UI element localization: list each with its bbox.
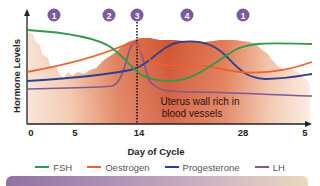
y-axis-label: Hormone Levels	[11, 39, 22, 113]
legend-item-fsh: FSH	[35, 162, 72, 173]
bottom-banner	[6, 176, 308, 186]
phase-badge-1: 1	[48, 9, 61, 22]
svg-text:4: 4	[185, 11, 190, 21]
progesterone-swatch-icon	[165, 166, 179, 168]
fsh-swatch-icon	[35, 166, 49, 168]
svg-text:1: 1	[52, 11, 57, 21]
x-tick-1: 5	[72, 127, 78, 138]
legend-label: LH	[273, 162, 285, 173]
annotation-line-1: Uterus wall rich in	[161, 96, 240, 107]
legend-label: FSH	[53, 162, 72, 173]
phase-badge-5: 1	[237, 9, 250, 22]
lh-swatch-icon	[255, 166, 269, 168]
phase-badge-4: 4	[181, 9, 194, 22]
legend-item-progesterone: Progesterone	[165, 162, 240, 173]
x-tick-3: 28	[238, 127, 249, 138]
phase-badge-2: 2	[103, 9, 116, 22]
hormone-chart: 1 2 3 4 1 Uterus wall rich in blood vess…	[0, 0, 320, 186]
legend-label: Oestrogen	[105, 162, 149, 173]
x-tick-2: 14	[134, 127, 145, 138]
x-tick-0: 0	[28, 127, 33, 138]
x-tick-4: 5	[302, 127, 308, 138]
legend-label: Progesterone	[183, 162, 240, 173]
svg-text:2: 2	[107, 11, 112, 21]
legend-item-oestrogen: Oestrogen	[87, 162, 149, 173]
legend: FSH Oestrogen Progesterone LH	[0, 160, 320, 174]
oestrogen-swatch-icon	[87, 166, 101, 168]
annotation-line-2: blood vessels	[162, 108, 223, 119]
y-axis-arrow-icon	[24, 9, 30, 16]
svg-text:3: 3	[135, 11, 140, 21]
phase-badge-3: 3	[131, 9, 144, 22]
legend-item-lh: LH	[255, 162, 285, 173]
svg-text:1: 1	[241, 11, 246, 21]
x-axis-label: Day of Cycle	[127, 146, 184, 157]
